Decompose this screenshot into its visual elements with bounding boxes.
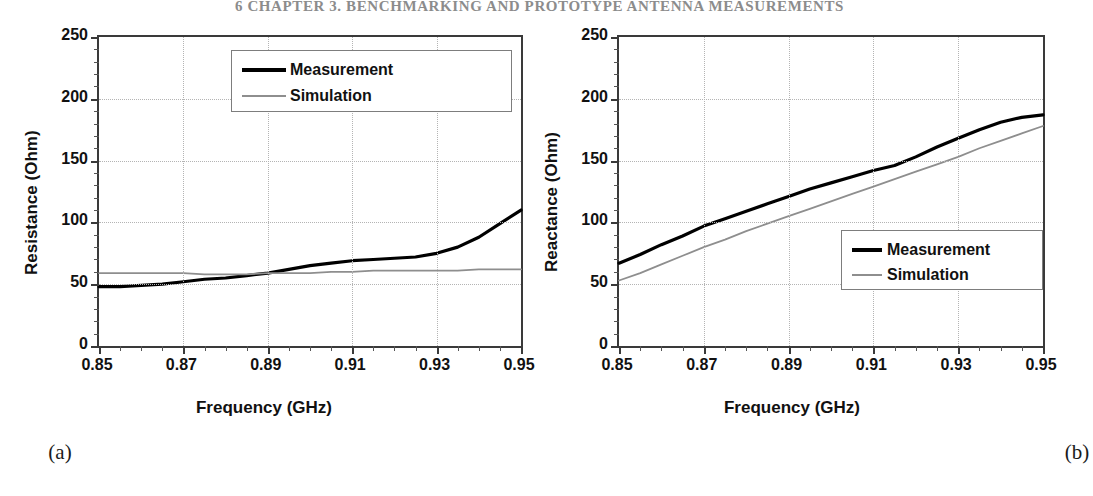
y-axis-tick-label: 150 (550, 150, 608, 168)
y-axis-minor-tick (614, 297, 619, 298)
y-axis-minor-tick (614, 173, 619, 174)
gridline-horizontal (619, 99, 1043, 100)
y-axis-tick (91, 222, 99, 224)
x-axis-tick (704, 346, 706, 354)
curves-reactance (619, 37, 1043, 346)
y-axis-minor-tick (94, 148, 99, 149)
gridline-vertical (704, 37, 705, 346)
y-axis-tick-label: 50 (30, 273, 88, 291)
y-axis-minor-tick (614, 74, 619, 75)
gridline-horizontal (619, 222, 1043, 223)
y-axis-tick-label: 250 (30, 26, 88, 44)
x-axis-tick (437, 346, 439, 354)
x-axis-label: Frequency (GHz) (4, 398, 524, 418)
x-axis-minor-tick (416, 346, 417, 351)
panel-b: Reactance (Ohm) Frequency (GHz) Measurem… (520, 0, 1040, 496)
x-axis-minor-tick (979, 346, 980, 351)
x-axis-minor-tick (458, 346, 459, 351)
x-axis-minor-tick (683, 346, 684, 351)
x-axis-tick-label: 0.87 (667, 356, 737, 374)
gridline-horizontal (99, 222, 521, 223)
x-axis-minor-tick (394, 346, 395, 351)
y-axis-tick (611, 284, 619, 286)
y-axis-minor-tick (94, 334, 99, 335)
x-axis-minor-tick (373, 346, 374, 351)
y-axis-minor-tick (614, 247, 619, 248)
y-axis-minor-tick (94, 297, 99, 298)
x-axis-tick (99, 346, 101, 354)
y-axis-minor-tick (614, 49, 619, 50)
gridline-horizontal (99, 284, 521, 285)
y-axis-minor-tick (94, 309, 99, 310)
y-axis-minor-tick (614, 259, 619, 260)
gridline-horizontal (619, 161, 1043, 162)
y-axis-minor-tick (94, 136, 99, 137)
y-axis-tick-label: 250 (550, 26, 608, 44)
y-axis-minor-tick (614, 321, 619, 322)
x-axis-tick (183, 346, 185, 354)
x-axis-label: Frequency (GHz) (532, 398, 1052, 418)
x-axis-minor-tick (831, 346, 832, 351)
legend-item-measurement: Measurement (852, 237, 1030, 262)
x-axis-tick-label: 0.91 (315, 356, 385, 374)
x-axis-minor-tick (226, 346, 227, 351)
x-axis-tick-label: 0.95 (1006, 356, 1076, 374)
y-axis-minor-tick (94, 124, 99, 125)
y-axis-minor-tick (614, 272, 619, 273)
legend-swatch-measurement-icon (852, 248, 882, 252)
y-axis-minor-tick (614, 334, 619, 335)
y-axis-minor-tick (94, 173, 99, 174)
y-axis-minor-tick (614, 136, 619, 137)
y-axis-tick-label: 0 (30, 335, 88, 353)
x-axis-tick-label: 0.87 (146, 356, 216, 374)
y-axis-tick-label: 200 (30, 88, 88, 106)
legend-item-simulation: Simulation (242, 83, 499, 109)
x-axis-tick-label: 0.85 (582, 356, 652, 374)
x-axis-minor-tick (479, 346, 480, 351)
x-axis-minor-tick (1001, 346, 1002, 351)
legend-resistance: Measurement Simulation (231, 50, 512, 112)
y-axis-minor-tick (614, 185, 619, 186)
y-axis-minor-tick (614, 86, 619, 87)
y-axis-minor-tick (614, 309, 619, 310)
y-axis-tick-label: 200 (550, 88, 608, 106)
x-axis-tick (958, 346, 960, 354)
x-axis-minor-tick (247, 346, 248, 351)
panel-caption-a: (a) (0, 440, 320, 465)
legend-reactance: Measurement Simulation (841, 230, 1043, 290)
y-axis-tick (91, 346, 99, 348)
x-axis-minor-tick (162, 346, 163, 351)
x-axis-tick (789, 346, 791, 354)
gridline-vertical (958, 37, 959, 346)
x-axis-tick-label: 0.85 (62, 356, 132, 374)
x-axis-tick (352, 346, 354, 354)
y-axis-tick-label: 100 (30, 211, 88, 229)
series-line-simulation (99, 269, 521, 274)
x-axis-minor-tick (1022, 346, 1023, 351)
legend-item-simulation: Simulation (852, 262, 1030, 287)
y-axis-minor-tick (94, 235, 99, 236)
x-axis-minor-tick (725, 346, 726, 351)
gridline-vertical (789, 37, 790, 346)
x-axis-tick (873, 346, 875, 354)
y-axis-minor-tick (94, 321, 99, 322)
y-axis-tick (611, 99, 619, 101)
y-axis-tick (611, 346, 619, 348)
y-axis-minor-tick (94, 49, 99, 50)
gridline-vertical (873, 37, 874, 346)
x-axis-minor-tick (331, 346, 332, 351)
x-axis-minor-tick (640, 346, 641, 351)
legend-item-measurement: Measurement (242, 57, 499, 83)
y-axis-tick-label: 100 (550, 211, 608, 229)
legend-swatch-measurement-icon (242, 68, 286, 72)
legend-swatch-simulation-icon (242, 95, 286, 97)
x-axis-minor-tick (289, 346, 290, 351)
y-axis-tick-label: 50 (550, 273, 608, 291)
y-axis-minor-tick (614, 210, 619, 211)
y-axis-tick (91, 161, 99, 163)
y-axis-minor-tick (94, 86, 99, 87)
y-axis-minor-tick (614, 62, 619, 63)
x-axis-tick (619, 346, 621, 354)
y-axis-minor-tick (614, 235, 619, 236)
